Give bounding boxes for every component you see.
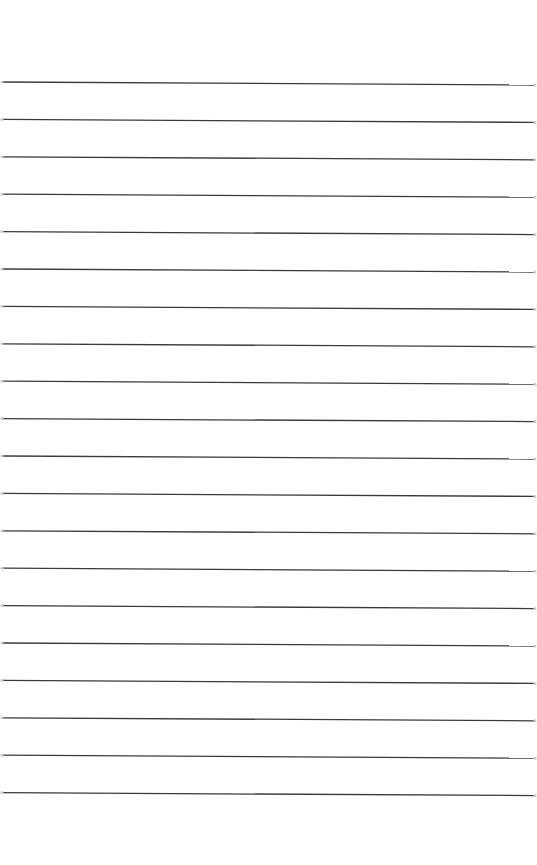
- line-end-mark: [534, 158, 537, 161]
- line-end-mark: [534, 607, 537, 610]
- line-end-mark: [1, 791, 4, 794]
- line-end-mark: [1, 642, 4, 645]
- line-end-mark: [534, 196, 537, 199]
- line-end-mark: [534, 794, 537, 797]
- ruled-lines: [0, 0, 537, 865]
- line-end-mark: [1, 455, 4, 458]
- ruled-line: [3, 680, 534, 683]
- line-end-mark: [1, 716, 4, 719]
- ruled-line: [3, 493, 534, 496]
- ruled-line: [3, 643, 534, 646]
- line-end-mark: [534, 682, 537, 685]
- line-end-mark: [534, 495, 537, 498]
- line-end-mark: [534, 458, 537, 461]
- ruled-line: [3, 718, 534, 721]
- ruled-line: [3, 568, 534, 571]
- line-end-mark: [1, 567, 4, 570]
- line-end-mark: [534, 383, 537, 386]
- line-end-mark: [1, 679, 4, 682]
- ruled-line: [3, 755, 534, 758]
- line-end-mark: [1, 230, 4, 233]
- line-end-mark: [534, 757, 537, 760]
- line-end-mark: [1, 268, 4, 271]
- ruled-line: [3, 269, 534, 272]
- line-end-mark: [534, 645, 537, 648]
- line-end-mark: [1, 529, 4, 532]
- ruled-line: [3, 606, 534, 609]
- line-end-mark: [1, 305, 4, 308]
- ruled-line: [3, 344, 534, 347]
- line-end-mark: [534, 84, 537, 87]
- ruled-line: [3, 531, 534, 534]
- lined-paper-sheet: [0, 0, 537, 865]
- ruled-line: [3, 306, 534, 309]
- line-end-mark: [534, 345, 537, 348]
- ruled-line: [3, 82, 534, 85]
- ruled-line: [3, 194, 534, 197]
- line-end-mark: [1, 604, 4, 607]
- line-end-mark: [534, 719, 537, 722]
- line-end-mark: [534, 532, 537, 535]
- ruled-line: [3, 119, 534, 122]
- line-end-mark: [534, 308, 537, 311]
- line-end-mark: [1, 155, 4, 158]
- line-end-mark: [1, 380, 4, 383]
- line-end-mark: [534, 233, 537, 236]
- line-end-mark: [1, 492, 4, 495]
- ruled-line: [3, 381, 534, 384]
- ruled-line: [3, 157, 534, 160]
- line-end-mark: [1, 118, 4, 121]
- line-end-mark: [1, 754, 4, 757]
- line-end-mark: [1, 193, 4, 196]
- line-end-mark: [1, 342, 4, 345]
- line-end-mark: [534, 121, 537, 124]
- line-end-mark: [534, 420, 537, 423]
- ruled-line: [3, 793, 534, 796]
- line-end-mark: [1, 81, 4, 84]
- ruled-line: [3, 456, 534, 459]
- line-end-mark: [1, 417, 4, 420]
- line-end-mark: [534, 570, 537, 573]
- ruled-line: [3, 419, 534, 422]
- ruled-line: [3, 232, 534, 235]
- line-end-mark: [534, 271, 537, 274]
